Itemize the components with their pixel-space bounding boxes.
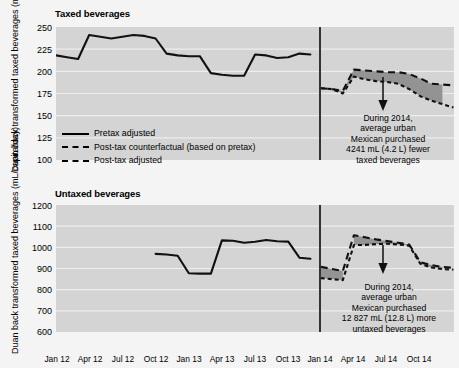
panel-title-untaxed: Untaxed beverages [55,188,140,199]
annotation-untaxed-line-5: untaxed beverages [318,324,459,334]
ytick-untaxed-1000: 1000 [20,243,52,253]
annotation-taxed-line-4: 4241 mL (4.2 L) fewer [318,144,458,154]
ytick-untaxed-600: 600 [20,327,52,337]
ytick-taxed-150: 150 [26,111,52,121]
legend-item-posttax-adjusted: Post-tax adjusted [62,154,255,168]
ytick-taxed-125: 125 [26,133,52,143]
series-pretax-adjusted-taxed [56,35,310,76]
chart-legend: Pretax adjusted Post-tax counterfactual … [62,127,255,168]
annotation-arrow-untaxed [378,245,387,274]
ytick-taxed-200: 200 [26,67,52,77]
annotation-untaxed-line-2: average urban [318,292,459,302]
ytick-taxed-175: 175 [26,89,52,99]
panel-taxed-beverages: Taxed beverages Duan back transformed ta… [0,0,459,182]
ytick-untaxed-700: 700 [20,306,52,316]
legend-key-long-dash-icon [62,142,89,152]
legend-label-posttax-adjusted: Post-tax adjusted [94,154,162,168]
ytick-taxed-225: 225 [26,45,52,55]
legend-item-posttax-counterfactual: Post-tax counterfactual (based on pretax… [62,141,255,155]
ytick-taxed-250: 250 [26,23,52,33]
legend-key-solid-icon [62,129,89,139]
shaded-difference-taxed [321,70,443,105]
annotation-untaxed-line-4: 12 827 mL (12.8 L) more [318,313,459,323]
ytick-untaxed-900: 900 [20,264,52,274]
ytick-untaxed-1200: 1200 [20,201,52,211]
series-posttax-counterfactual-untaxed [321,235,454,271]
xtick-oct-14: Oct 14 [400,354,438,364]
annotation-untaxed-line-1: During 2014, [318,282,459,292]
annotation-taxed: During 2014, average urban Mexican purch… [318,113,458,165]
annotation-untaxed: During 2014, average urban Mexican purch… [318,282,459,334]
panel-title-taxed: Taxed beverages [55,8,130,19]
legend-label-pretax-adjusted: Pretax adjusted [94,127,155,141]
ytick-untaxed-800: 800 [20,285,52,295]
ytick-untaxed-1100: 1100 [20,222,52,232]
y-axis-label-untaxed-text: Duan back transformed taxed beverages (m… [10,127,20,354]
ytick-taxed-100: 100 [26,155,52,165]
annotation-taxed-line-5: taxed beverages [318,155,458,165]
legend-item-pretax-adjusted: Pretax adjusted [62,127,255,141]
legend-label-posttax-counterfactual: Post-tax counterfactual (based on pretax… [94,141,255,155]
annotation-taxed-line-2: average urban [318,123,458,133]
shaded-difference-untaxed [321,235,443,280]
annotation-untaxed-line-3: Mexican purchased [318,303,459,313]
annotation-taxed-line-3: Mexican purchased [318,134,458,144]
panel-untaxed-beverages: Untaxed beverages Duan back transformed … [0,182,459,368]
annotation-taxed-line-1: During 2014, [318,113,458,123]
figure-root: Taxed beverages Duan back transformed ta… [0,0,459,368]
legend-key-short-dash-icon [62,156,89,166]
